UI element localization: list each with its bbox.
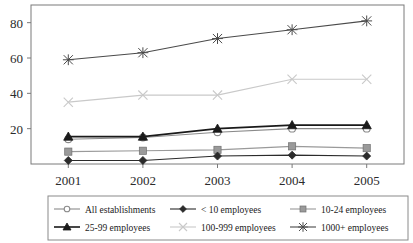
x-axis-tick-label: 2003 [205,173,231,188]
data-point-marker [212,33,223,44]
legend-label: 10-24 employees [321,205,386,215]
data-point-marker [64,206,70,212]
chart-legend: All establishments< 10 employees10-24 em… [48,196,408,240]
y-axis-tick-label: 20 [10,122,23,137]
legend-label: All establishments [85,205,156,215]
x-axis-tick-label: 2001 [55,173,81,188]
data-point-marker [139,147,146,154]
line-chart: 2040608020012002200320042005All establis… [0,0,413,243]
y-axis-tick-label: 40 [10,86,23,101]
y-axis-tick-label: 80 [10,16,23,31]
y-axis-tick-label: 60 [10,51,23,66]
data-point-marker [361,16,372,27]
legend-border [48,196,408,240]
plot-frame [31,5,404,164]
data-point-marker [363,145,370,152]
legend-label: 1000+ employees [321,223,389,233]
legend-label: 100-999 employees [201,223,276,233]
legend-label: 25-99 employees [85,223,150,233]
x-axis-tick-label: 2002 [130,173,156,188]
data-point-marker [287,24,298,35]
data-point-marker [289,143,296,150]
data-point-marker [298,222,308,232]
chart-canvas: 2040608020012002200320042005All establis… [0,0,413,243]
data-point-marker [300,206,306,212]
legend-label: < 10 employees [201,205,262,215]
data-point-marker [138,47,149,58]
data-point-marker [65,148,72,155]
x-axis-tick-label: 2005 [354,173,380,188]
x-axis-tick-label: 2004 [279,173,306,188]
data-point-marker [63,54,74,65]
